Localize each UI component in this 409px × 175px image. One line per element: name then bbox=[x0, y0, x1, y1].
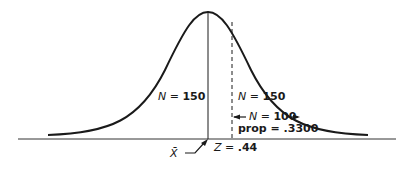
proportion-label: prop = .3300 bbox=[238, 123, 318, 135]
mean-label: X̄ bbox=[170, 148, 178, 160]
right-region-label: N = 150 bbox=[238, 91, 285, 103]
left-region-label: N = 150 bbox=[158, 91, 205, 103]
mean-pointer-arrow bbox=[185, 139, 208, 153]
normal-curve-figure bbox=[0, 0, 409, 175]
z-score-label: Z = .44 bbox=[214, 142, 257, 154]
